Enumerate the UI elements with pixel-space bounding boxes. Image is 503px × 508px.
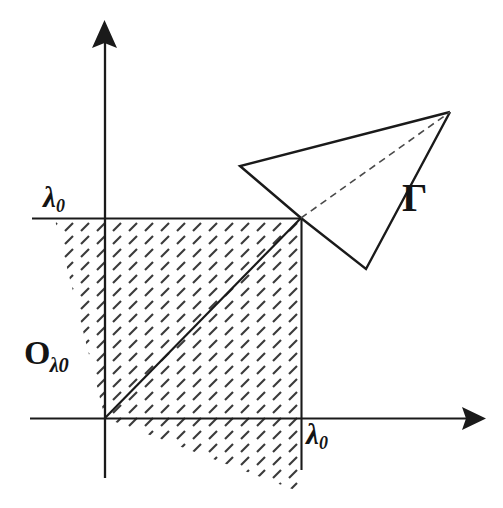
lambda-glyph: λ	[306, 418, 319, 450]
omega-region-label: Oλ0	[24, 336, 68, 376]
y-axis-lambda0-label: λ0	[43, 183, 65, 215]
lambda-subscript: 0	[319, 433, 328, 453]
omega-glyph: O	[24, 334, 50, 371]
omega-subscript: λ0	[50, 354, 69, 376]
gamma-cone-label: Γ	[402, 178, 427, 218]
x-axis-lambda0-label: λ0	[306, 420, 328, 452]
figure-canvas	[0, 0, 503, 508]
shaded-region-omega	[55, 220, 301, 492]
cone-axis-dashed-line	[301, 112, 450, 218]
lambda-glyph: λ	[43, 181, 56, 213]
cone-lower-edges	[301, 112, 450, 269]
lambda-subscript: 0	[56, 196, 65, 216]
math-figure: λ0 λ0 Oλ0 Γ	[0, 0, 503, 508]
